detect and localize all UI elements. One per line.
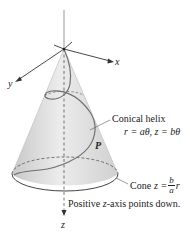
y-axis-label: y xyxy=(8,79,12,89)
cone-surface xyxy=(12,49,118,186)
cone-lhs: z = xyxy=(154,181,167,191)
cone-prefix: Cone xyxy=(130,181,151,191)
x-axis xyxy=(64,49,110,61)
point-p-label: P xyxy=(95,141,101,151)
cone-rhs-var: r xyxy=(176,181,180,191)
cone-fraction: b a xyxy=(168,176,175,195)
x-axis-arrow xyxy=(108,59,115,64)
x-axis-label: x xyxy=(115,57,119,67)
cone-leader-line xyxy=(116,178,128,184)
y-axis-arrow xyxy=(15,77,22,83)
axis-direction-note: Positive z-axis points down. xyxy=(68,199,180,209)
origin-point xyxy=(63,48,66,51)
helix-title: Conical helix xyxy=(112,114,166,124)
helix-equation: r = aθ, z = bθ xyxy=(124,127,180,137)
z-axis-arrow xyxy=(62,210,67,216)
z-axis-label: z xyxy=(61,220,65,230)
cone-equation: Cone z = b a r xyxy=(130,176,180,195)
